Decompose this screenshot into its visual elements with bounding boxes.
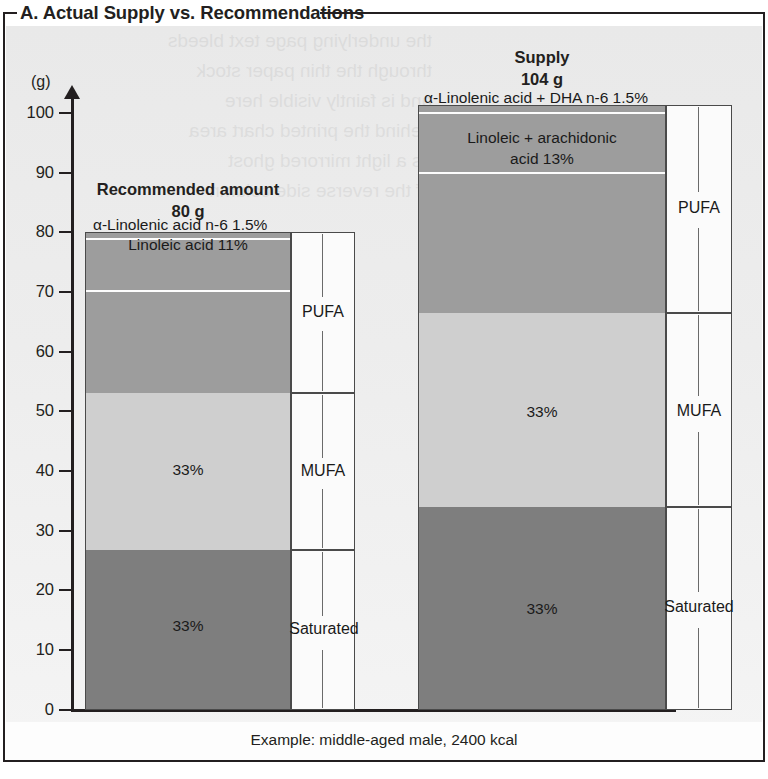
supply-heading-line2: 104 g: [418, 68, 666, 90]
supply-saturated-bracket-label: Saturated: [660, 598, 738, 616]
supply-heading-line1: Supply: [418, 46, 666, 68]
figure-panel: the underlying page text bleeds through …: [0, 0, 768, 779]
recommended-bracket-sat-tick-bottom: [322, 650, 323, 708]
y-tick-30: [59, 530, 71, 532]
y-tick-label-20: 20: [12, 580, 54, 599]
recommended-heading-line1: Recommended amount: [85, 178, 291, 200]
supply-alpha-linolenic-label: α-Linolenic acid + DHA n-6 1.5%: [424, 89, 648, 107]
y-tick-label-60: 60: [12, 342, 54, 361]
recommended-pufa-label: PUFA: [291, 303, 355, 321]
y-tick-60: [59, 351, 71, 353]
y-tick-label-70: 70: [12, 282, 54, 301]
y-tick-label-10: 10: [12, 640, 54, 659]
y-tick-label-50: 50: [12, 401, 54, 420]
y-tick-90: [59, 172, 71, 174]
frame-bottom-edge: [3, 760, 765, 762]
y-tick-80: [59, 231, 71, 233]
figure-caption: Example: middle-aged male, 2400 kcal: [0, 731, 768, 749]
recommended-bracket-pufa-tick-bottom: [322, 331, 323, 391]
recommended-saturated-label: 33%: [85, 617, 291, 635]
recommended-linoleic-label: Linoleic acid 11%: [85, 236, 291, 254]
y-axis-line: [71, 95, 74, 712]
segment-pufa-other[interactable]: [418, 174, 666, 313]
recommended-bracket-sat-tick-top: [322, 552, 323, 616]
supply-saturated-label: 33%: [418, 600, 666, 618]
y-tick-100: [59, 112, 71, 114]
supply-bracket-sat-tick-top: [698, 509, 699, 592]
recommended-mufa-label: 33%: [85, 461, 291, 479]
y-tick-label-40: 40: [12, 461, 54, 480]
supply-bracket-mufa-tick-top: [698, 315, 699, 396]
y-tick-50: [59, 410, 71, 412]
frame-left-edge: [3, 12, 5, 762]
recommended-bracket-mufa-tick-top: [322, 395, 323, 458]
supply-bracket-pufa-tick-top: [698, 107, 699, 192]
supply-linoleic-label-line1: Linoleic + arachidonic: [418, 127, 666, 148]
y-tick-40: [59, 470, 71, 472]
supply-mufa-label: 33%: [418, 403, 666, 421]
supply-pufa-label: PUFA: [666, 199, 732, 217]
panel-title: A. Actual Supply vs. Recommendations: [20, 2, 364, 24]
recommended-saturated-bracket-label: Saturated: [287, 620, 361, 638]
y-tick-label-90: 90: [12, 163, 54, 182]
y-tick-label-80: 80: [12, 222, 54, 241]
recommended-bracket-pufa-tick-top: [322, 234, 323, 297]
y-tick-0: [59, 709, 71, 711]
y-tick-label-30: 30: [12, 521, 54, 540]
segment-pufa-other[interactable]: [85, 292, 291, 393]
supply-bracket-sat-tick-bottom: [698, 628, 699, 708]
y-tick-70: [59, 291, 71, 293]
supply-bracket-mufa-tick-bottom: [698, 432, 699, 505]
y-axis-unit-label: (g): [31, 73, 51, 91]
frame-top-right-rule: [320, 12, 765, 14]
supply-bar-heading: Supply 104 g: [418, 46, 666, 90]
y-tick-20: [59, 589, 71, 591]
frame-right-edge: [763, 12, 765, 762]
y-tick-label-100: 100: [12, 103, 54, 122]
y-tick-label-0: 0: [12, 700, 54, 719]
y-tick-10: [59, 649, 71, 651]
supply-bracket-pufa-tick-bottom: [698, 228, 699, 311]
recommended-alpha-linolenic-label: α-Linolenic acid n-6 1.5%: [93, 216, 267, 234]
supply-linoleic-label: Linoleic + arachidonic acid 13%: [418, 127, 666, 169]
supply-linoleic-label-line2: acid 13%: [418, 148, 666, 169]
recommended-mufa-bracket-label: MUFA: [291, 462, 355, 480]
supply-mufa-bracket-label: MUFA: [666, 402, 732, 420]
recommended-bracket-mufa-tick-bottom: [322, 489, 323, 548]
frame-top-left-stub: [3, 12, 17, 14]
